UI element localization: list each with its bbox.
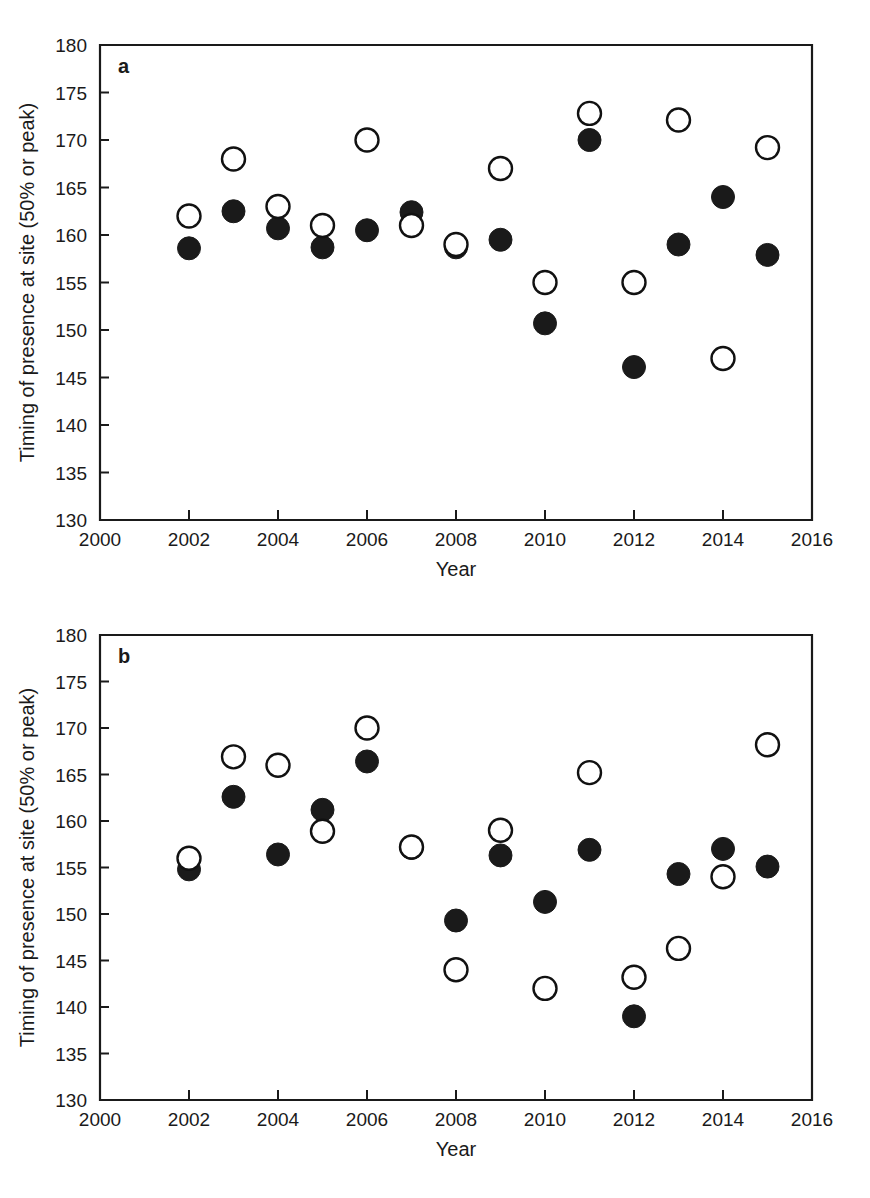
- x-tick-label: 2016: [791, 1109, 833, 1130]
- data-point-filled: [267, 217, 290, 240]
- y-tick-label: 180: [55, 625, 87, 646]
- data-point-open: [178, 205, 201, 228]
- data-point-open: [445, 958, 468, 981]
- data-point-open: [578, 761, 601, 784]
- data-point-filled: [712, 837, 735, 860]
- x-tick-label: 2012: [613, 1109, 655, 1130]
- data-point-open: [756, 733, 779, 756]
- y-tick-label: 135: [55, 463, 87, 484]
- data-point-open: [667, 937, 690, 960]
- x-tick-label: 2004: [257, 529, 300, 550]
- y-tick-label: 175: [55, 672, 87, 693]
- panel-letter: a: [118, 55, 130, 77]
- data-point-open: [756, 136, 779, 159]
- x-tick-label: 2008: [435, 1109, 477, 1130]
- data-point-open: [489, 819, 512, 842]
- x-tick-label: 2004: [257, 1109, 300, 1130]
- y-tick-label: 180: [55, 35, 87, 56]
- y-axis-title: Timing of presence at site (50% or peak): [16, 103, 38, 462]
- data-point-filled: [756, 855, 779, 878]
- y-tick-label: 160: [55, 225, 87, 246]
- y-tick-label: 150: [55, 904, 87, 925]
- x-tick-label: 2002: [168, 1109, 210, 1130]
- panel-b-plot: 1301351401451501551601651701751802000200…: [0, 590, 870, 1198]
- x-tick-label: 2012: [613, 529, 655, 550]
- data-point-open: [445, 233, 468, 256]
- data-point-filled: [712, 186, 735, 209]
- x-tick-label: 2010: [524, 529, 566, 550]
- y-tick-label: 145: [55, 951, 87, 972]
- x-tick-label: 2014: [702, 529, 745, 550]
- data-point-open: [267, 195, 290, 218]
- data-point-filled: [267, 843, 290, 866]
- panel-b: 1301351401451501551601651701751802000200…: [0, 590, 870, 1198]
- data-point-filled: [356, 750, 379, 773]
- data-point-open: [712, 347, 735, 370]
- data-point-open: [267, 754, 290, 777]
- data-point-filled: [178, 237, 201, 260]
- data-point-open: [311, 820, 334, 843]
- data-point-filled: [534, 312, 557, 335]
- y-tick-label: 130: [55, 510, 87, 531]
- x-tick-label: 2016: [791, 529, 833, 550]
- data-point-filled: [578, 129, 601, 152]
- data-point-filled: [534, 890, 557, 913]
- data-point-filled: [489, 844, 512, 867]
- panel-a-plot: 1301351401451501551601651701751802000200…: [0, 0, 870, 600]
- data-point-open: [178, 847, 201, 870]
- x-tick-label: 2002: [168, 529, 210, 550]
- data-point-open: [400, 214, 423, 237]
- panel-letter: b: [118, 645, 130, 667]
- x-tick-label: 2000: [79, 529, 121, 550]
- data-point-open: [311, 214, 334, 237]
- data-point-open: [578, 102, 601, 125]
- x-tick-label: 2014: [702, 1109, 745, 1130]
- y-tick-label: 140: [55, 415, 87, 436]
- y-tick-label: 130: [55, 1090, 87, 1111]
- data-point-open: [400, 836, 423, 859]
- data-point-open: [712, 865, 735, 888]
- y-tick-label: 165: [55, 765, 87, 786]
- data-point-filled: [623, 356, 646, 379]
- y-tick-label: 175: [55, 83, 87, 104]
- data-point-filled: [578, 838, 601, 861]
- x-tick-label: 2008: [435, 529, 477, 550]
- data-point-open: [623, 966, 646, 989]
- plot-frame: [100, 635, 812, 1100]
- y-tick-label: 165: [55, 178, 87, 199]
- data-point-filled: [667, 233, 690, 256]
- data-point-filled: [311, 236, 334, 259]
- y-tick-label: 140: [55, 997, 87, 1018]
- y-tick-label: 160: [55, 811, 87, 832]
- y-tick-label: 155: [55, 273, 87, 294]
- data-point-filled: [311, 798, 334, 821]
- data-point-filled: [222, 200, 245, 223]
- data-point-open: [222, 745, 245, 768]
- x-tick-label: 2000: [79, 1109, 121, 1130]
- y-tick-label: 135: [55, 1044, 87, 1065]
- data-point-open: [356, 129, 379, 152]
- x-tick-label: 2006: [346, 1109, 388, 1130]
- data-point-filled: [623, 1005, 646, 1028]
- data-point-open: [489, 157, 512, 180]
- x-axis-title: Year: [436, 1138, 477, 1160]
- y-tick-label: 150: [55, 320, 87, 341]
- data-point-open: [534, 271, 557, 294]
- data-point-open: [356, 717, 379, 740]
- x-tick-label: 2010: [524, 1109, 566, 1130]
- y-tick-label: 170: [55, 130, 87, 151]
- y-tick-label: 155: [55, 858, 87, 879]
- data-point-open: [667, 109, 690, 132]
- plot-frame: [100, 45, 812, 520]
- scatter-figure: 1301351401451501551601651701751802000200…: [0, 0, 870, 1198]
- y-tick-label: 170: [55, 718, 87, 739]
- y-axis-title: Timing of presence at site (50% or peak): [16, 688, 38, 1047]
- panel-a: 1301351401451501551601651701751802000200…: [0, 0, 870, 600]
- data-point-filled: [489, 228, 512, 251]
- data-point-filled: [222, 785, 245, 808]
- data-point-open: [623, 271, 646, 294]
- data-point-filled: [756, 243, 779, 266]
- data-point-filled: [667, 863, 690, 886]
- data-point-filled: [445, 909, 468, 932]
- data-point-open: [222, 148, 245, 171]
